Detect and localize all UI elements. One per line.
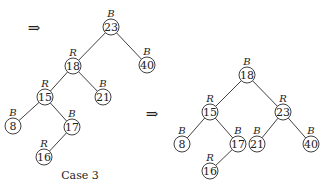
node-value: 18	[66, 60, 80, 73]
node-value: 8	[179, 138, 186, 151]
tree-node-after-40: 40B	[303, 125, 319, 152]
tree-edge	[49, 133, 66, 151]
node-color-label: B	[177, 125, 185, 136]
node-value: 16	[37, 151, 51, 164]
node-color-label: B	[306, 125, 314, 136]
red-black-tree-diagram: 23B18R40B15R21B8B17B16R18B15R23R8B17B21B…	[0, 0, 330, 189]
node-color-label: B	[98, 78, 106, 89]
tree-node-before-15: 15R	[37, 78, 53, 105]
tree-edge	[19, 102, 39, 120]
node-color-label: B	[233, 125, 241, 136]
case-caption: Case 3	[61, 169, 99, 182]
node-value: 16	[203, 165, 217, 178]
tree-edge	[79, 33, 106, 61]
node-color-label: B	[242, 56, 250, 67]
node-color-label: R	[40, 78, 49, 89]
node-color-label: R	[205, 152, 214, 163]
node-color-label: B	[8, 107, 16, 118]
tree-node-before-16: 16R	[36, 138, 52, 165]
implies-arrow-icon: ⇒	[28, 19, 41, 37]
node-value: 17	[231, 138, 245, 151]
node-value: 40	[140, 59, 154, 72]
tree-edge	[187, 118, 204, 138]
node-color-label: R	[205, 93, 214, 104]
tree-node-after-15: 15R	[202, 93, 218, 120]
nodes-layer: 23B18R40B15R21B8B17B16R18B15R23R8B17B21B…	[5, 8, 319, 179]
tree-node-after-8: 8B	[174, 125, 190, 152]
node-value: 21	[96, 91, 110, 104]
tree-edge	[50, 103, 66, 121]
tree-edge	[288, 118, 305, 138]
node-value: 17	[65, 121, 79, 134]
tree-node-before-17: 17B	[64, 108, 80, 135]
tree-edge	[216, 150, 232, 166]
node-color-label: R	[39, 138, 48, 149]
node-color-label: B	[106, 8, 114, 19]
node-value: 15	[203, 106, 217, 119]
tree-node-after-18: 18B	[239, 56, 255, 83]
node-color-label: R	[278, 93, 287, 104]
node-value: 21	[250, 138, 264, 151]
node-value: 23	[276, 106, 290, 119]
node-color-label: B	[252, 125, 260, 136]
tree-edge	[79, 72, 98, 92]
node-value: 23	[104, 21, 118, 34]
node-value: 15	[38, 91, 52, 104]
implies-arrow-icon: ⇒	[146, 105, 159, 123]
tree-node-after-17: 17B	[230, 125, 246, 152]
node-value: 40	[304, 138, 318, 151]
node-color-label: R	[68, 47, 77, 58]
tree-node-before-21: 21B	[95, 78, 111, 105]
tree-node-after-21: 21B	[249, 125, 265, 152]
tree-node-after-16: 16R	[202, 152, 218, 179]
node-value: 8	[10, 120, 17, 133]
tree-node-before-23: 23B	[103, 8, 119, 35]
tree-node-after-23: 23R	[275, 93, 291, 120]
node-color-label: B	[142, 46, 150, 57]
tree-edge	[215, 118, 232, 138]
tree-edge	[253, 81, 278, 107]
tree-node-before-40: 40B	[139, 46, 155, 73]
tree-edge	[216, 81, 242, 107]
tree-node-before-18: 18R	[65, 47, 81, 74]
tree-edge	[50, 72, 67, 91]
node-value: 18	[240, 69, 254, 82]
node-color-label: B	[67, 108, 75, 119]
tree-edge	[117, 33, 142, 59]
tree-edge	[262, 118, 278, 138]
tree-node-before-8: 8B	[5, 107, 21, 134]
